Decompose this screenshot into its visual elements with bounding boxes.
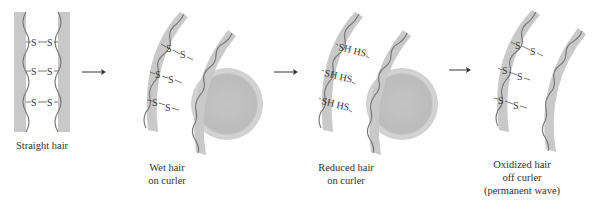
label-oxidized-hair-line3: (permanent wave) bbox=[484, 185, 561, 197]
hair-strand-inner bbox=[544, 28, 586, 152]
hair-strand-left bbox=[14, 12, 26, 132]
hair-strand-right bbox=[58, 12, 70, 132]
disulfide-bond: S S bbox=[26, 97, 58, 108]
arrow-3 bbox=[449, 67, 471, 73]
disulfide-bond: S S bbox=[26, 37, 58, 48]
panel-wet-hair: S S S S S S Wet hair on curler bbox=[144, 12, 263, 186]
sulfur-atom: S bbox=[502, 65, 508, 76]
panel-reduced-hair: SH HS SH HS SH HS Reduced hair on curler bbox=[318, 12, 438, 186]
sulfur-atom: S bbox=[498, 95, 504, 106]
sulfur-atom: S bbox=[155, 69, 161, 80]
label-oxidized-hair-line1: Oxidized hair bbox=[493, 159, 551, 170]
label-wet-hair-line2: on curler bbox=[148, 175, 186, 186]
sulfur-atom: S bbox=[180, 49, 186, 60]
permanent-wave-diagram: S S S S S S Straight hair bbox=[0, 0, 609, 204]
sulfur-atom: S bbox=[47, 37, 53, 48]
hair-strand-outer bbox=[147, 12, 188, 132]
arrow-2 bbox=[274, 69, 298, 75]
thiol-group: HS bbox=[336, 99, 351, 112]
disulfide-bond: S S bbox=[161, 43, 193, 60]
label-straight-hair: Straight hair bbox=[16, 140, 69, 151]
sulfur-atom: S bbox=[47, 66, 53, 77]
disulfide-bond: S S bbox=[26, 66, 58, 77]
label-reduced-hair-line2: on curler bbox=[327, 175, 365, 186]
sulfur-atom: S bbox=[530, 46, 536, 57]
panel-oxidized-hair: S S S S S S Oxidized hair off curler (pe… bbox=[484, 10, 586, 197]
thiol-group: HS bbox=[353, 45, 368, 58]
panel-straight-hair: S S S S S S Straight hair bbox=[14, 12, 70, 151]
sulfur-atom: S bbox=[31, 37, 37, 48]
label-wet-hair-line1: Wet hair bbox=[149, 162, 185, 173]
sulfur-atom: S bbox=[166, 43, 172, 54]
sulfur-atom: S bbox=[515, 40, 521, 51]
thiol-group: HS bbox=[339, 71, 354, 84]
sulfur-atom: S bbox=[168, 74, 174, 85]
sulfur-atom: S bbox=[517, 71, 523, 82]
sulfur-atom: S bbox=[513, 100, 519, 111]
sulfur-atom: S bbox=[31, 97, 37, 108]
sulfur-atom: S bbox=[31, 66, 37, 77]
sulfur-atom: S bbox=[152, 97, 158, 108]
thiol-pair: SH HS bbox=[336, 41, 369, 58]
arrow-1 bbox=[82, 69, 106, 75]
sulfur-atom: S bbox=[165, 102, 171, 113]
label-oxidized-hair-line2: off curler bbox=[502, 172, 542, 183]
sulfur-atom: S bbox=[47, 97, 53, 108]
label-reduced-hair-line1: Reduced hair bbox=[318, 162, 374, 173]
